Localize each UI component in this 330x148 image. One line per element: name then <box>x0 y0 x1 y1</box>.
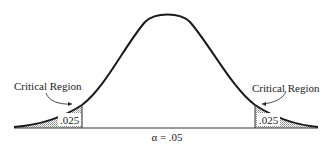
right-area-value: .025 <box>259 114 279 126</box>
right-region-label: Critical Region <box>252 82 320 94</box>
left-region-label: Critical Region <box>14 80 82 92</box>
bell-curve <box>14 15 318 128</box>
normal-curve-diagram: Critical Region .025 Critical Region .02… <box>0 0 330 148</box>
left-area-value: .025 <box>60 114 80 126</box>
alpha-label: α = .05 <box>151 131 183 143</box>
